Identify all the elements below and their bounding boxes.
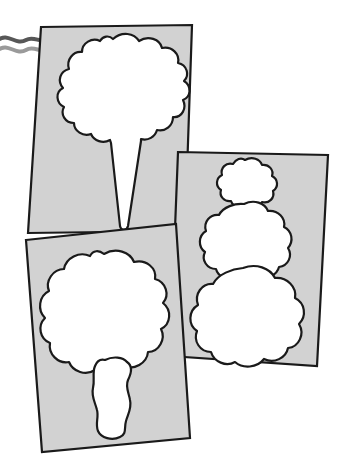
stencil-card-snowman[interactable]	[170, 152, 328, 367]
stencil-card-cone[interactable]	[28, 25, 192, 233]
illustration-canvas	[0, 0, 345, 469]
stencil-illustration: Three overlapping stencil cards with cut…	[0, 0, 345, 469]
snowman-head-cutout	[217, 158, 277, 207]
tree-trunk-cutout	[92, 358, 130, 439]
stencil-card-tree[interactable]	[26, 224, 190, 452]
